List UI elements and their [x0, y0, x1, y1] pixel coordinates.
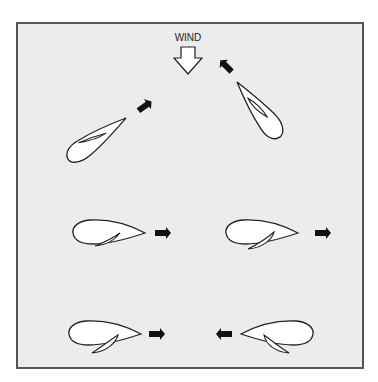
arrow-up-right-icon [135, 96, 155, 115]
arrow-right-icon [149, 328, 165, 340]
sailing-diagram: WIND [0, 0, 378, 382]
arrow-up-left-icon [216, 56, 236, 76]
boat-middle-right [226, 220, 298, 249]
boat-upper-left [63, 110, 132, 167]
arrow-left-icon [216, 328, 232, 340]
boat-upper-right [230, 75, 288, 143]
wind-label: WIND [175, 32, 202, 43]
arrow-right-icon [155, 227, 171, 239]
arrow-right-icon [315, 227, 331, 239]
boat-bottom-left [69, 321, 141, 353]
boat-middle-left [73, 220, 145, 246]
boat-bottom-right [241, 321, 313, 353]
wind-arrow-icon [174, 47, 202, 74]
